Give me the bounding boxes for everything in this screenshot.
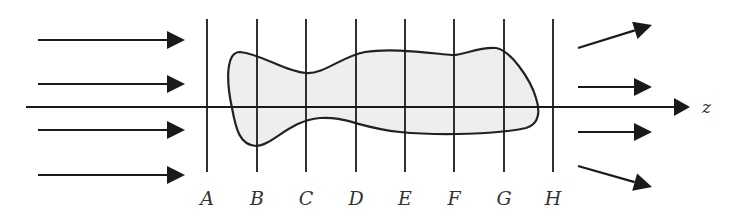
- plane-label-h: H: [544, 187, 562, 209]
- plane-label-f: F: [446, 187, 461, 209]
- arrowhead-icon: [167, 121, 185, 139]
- plane-labels: ABCDEFGH: [198, 187, 562, 209]
- incoming-arrow-4: [38, 166, 185, 184]
- scattering-object: [228, 48, 538, 146]
- plane-label-e: E: [397, 187, 412, 209]
- plane-label-g: G: [496, 187, 511, 209]
- arrowhead-icon: [634, 123, 652, 141]
- plane-label-c: C: [299, 187, 314, 209]
- outgoing-arrow-4: [578, 166, 652, 191]
- outgoing-arrow-3: [578, 123, 652, 141]
- outgoing-arrow-2: [578, 78, 652, 96]
- arrowhead-icon: [632, 22, 652, 39]
- plane-label-a: A: [198, 187, 214, 209]
- z-axis-arrowhead-icon: [674, 98, 690, 116]
- arrowhead-icon: [632, 173, 652, 190]
- plane-label-d: D: [347, 187, 363, 209]
- arrowhead-icon: [634, 78, 652, 96]
- incoming-arrow-3: [38, 121, 185, 139]
- object-outline: [228, 48, 538, 146]
- incoming-arrow-1: [38, 31, 185, 49]
- arrowhead-icon: [167, 166, 185, 184]
- incoming-arrow-2: [38, 75, 185, 93]
- arrow-shaft: [578, 166, 635, 182]
- z-axis-label: z: [701, 97, 712, 117]
- arrowhead-icon: [167, 75, 185, 93]
- beam-propagation-diagram: z ABCDEFGH: [0, 0, 729, 222]
- arrowhead-icon: [167, 31, 185, 49]
- arrow-shaft: [578, 30, 635, 48]
- plane-label-b: B: [249, 187, 264, 209]
- outgoing-arrow-1: [578, 22, 652, 48]
